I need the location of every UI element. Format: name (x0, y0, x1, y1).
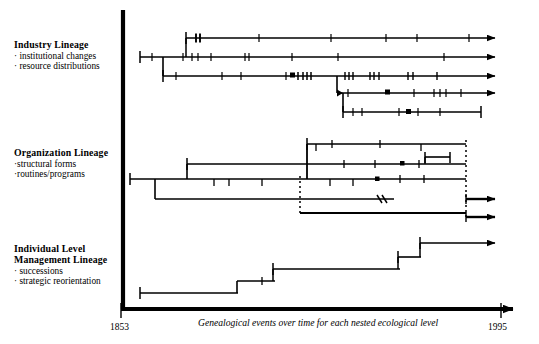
organization-line-1-events (316, 140, 421, 151)
figure-caption: Genealogical events over time for each n… (198, 317, 438, 328)
industry-lineage-label: Industry Lineage · institutional changes… (14, 40, 100, 72)
industry-lineage-bullet-2: · resource distributions (14, 61, 100, 71)
organization-lineage-bullet-1: ·structural forms (14, 159, 108, 169)
individual-lineage-lines (140, 237, 495, 299)
individual-lineage-bullet-2: · strategic reorientation (14, 276, 107, 286)
figure-root: Industry Lineage · institutional changes… (0, 0, 539, 344)
organization-lineage-label: Organization Lineage ·structural forms ·… (14, 148, 108, 180)
industry-lineage-lines (140, 32, 495, 118)
organization-lineage-title: Organization Lineage (14, 148, 108, 159)
industry-line-4-start-arrowhead (337, 90, 343, 97)
individual-lineage-title-line2: Management Lineage (14, 255, 107, 266)
axis-start-year: 1853 (110, 322, 129, 332)
organization-lineage-lines (130, 138, 495, 222)
axis-end-year: 1995 (488, 322, 507, 332)
individual-lineage-label: Individual Level Management Lineage · su… (14, 244, 107, 287)
organization-lineage-bullet-2: ·routines/programs (14, 169, 108, 179)
organization-line-3-events (214, 175, 424, 186)
industry-lineage-bullet-1: · institutional changes (14, 51, 100, 61)
industry-lineage-title: Industry Lineage (14, 40, 100, 51)
individual-lineage-bullet-1: · successions (14, 266, 107, 276)
